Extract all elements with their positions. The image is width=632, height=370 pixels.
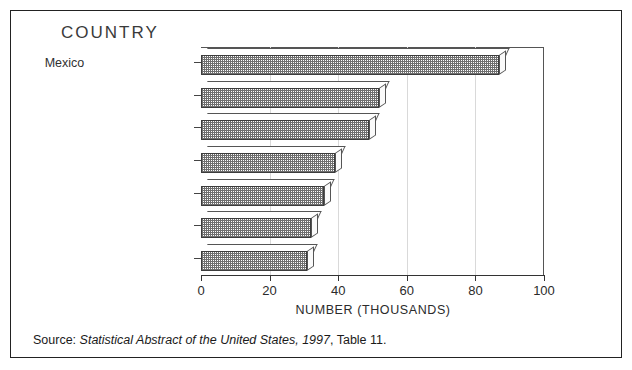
x-tick-60 [407,275,408,281]
bar-row[interactable]: Dominican Rep. [11,179,341,209]
bar-vietnam[interactable] [201,146,342,176]
x-tick-label: 60 [387,283,427,298]
x-tick-label: 100 [524,283,564,298]
bar-row[interactable]: India [11,244,324,274]
bar-row[interactable]: Soviet Un.(FMR) [11,81,396,111]
bar-india[interactable] [201,244,314,274]
bar-row[interactable]: Philippines [11,113,386,143]
x-tick-label: 80 [455,283,495,298]
x-tick-80 [475,275,476,281]
bar-side-face [335,148,342,173]
y-axis-tick [194,95,201,96]
x-tick-label: 40 [318,283,358,298]
bar-front-face [201,218,311,238]
x-tick-label: 0 [181,283,221,298]
bar-side-face [324,181,331,206]
bar-row[interactable]: Vietnam [11,146,352,176]
figure-panel: COUNTRY MexicoSoviet Un.(FMR)Philippines… [10,10,622,358]
bar-side-face [307,246,314,271]
y-axis-tick [194,258,201,259]
source-note: Source: Statistical Abstract of the Unit… [33,333,386,347]
x-tick-40 [338,275,339,281]
bar-front-face [201,186,324,206]
y-axis-tick [194,62,201,63]
bar-row[interactable]: China [11,211,328,241]
bar-front-face [201,251,307,271]
bar-philippines[interactable] [201,113,376,143]
bar-front-face [201,120,369,140]
bar-mexico[interactable] [201,48,506,78]
bar-front-face [201,153,335,173]
bar-china[interactable] [201,211,318,241]
bar-side-face [369,116,376,141]
category-label: Mexico [45,48,85,78]
bar-side-face [311,213,318,238]
y-axis-tick [194,160,201,161]
bar-soviet-un-fmr[interactable] [201,81,386,111]
y-axis-tick [194,127,201,128]
source-title: Statistical Abstract of the United State… [80,333,330,347]
bar-row[interactable]: Mexico [11,48,516,78]
y-axis-tick [194,225,201,226]
x-tick-0 [201,275,202,281]
x-axis-title: NUMBER (THOUSANDS) [201,303,545,317]
bar-dominican-rep[interactable] [201,179,331,209]
y-axis-tick [194,193,201,194]
bar-side-face [499,51,506,76]
bar-front-face [201,88,379,108]
x-tick-label: 20 [250,283,290,298]
x-tick-100 [544,275,545,281]
bar-side-face [379,83,386,108]
bar-front-face [201,55,499,75]
source-suffix: , Table 11. [330,333,387,347]
source-prefix: Source: [33,333,76,347]
x-tick-20 [270,275,271,281]
